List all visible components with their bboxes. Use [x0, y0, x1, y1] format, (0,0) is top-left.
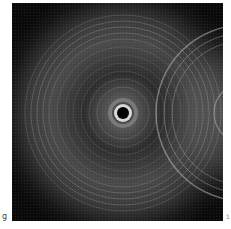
figure-image-panel [12, 3, 223, 221]
panel-label: g [2, 213, 7, 221]
corner-mark: 1 [226, 214, 230, 220]
center-spot [108, 98, 138, 128]
ring-pattern-graphic [12, 3, 223, 221]
